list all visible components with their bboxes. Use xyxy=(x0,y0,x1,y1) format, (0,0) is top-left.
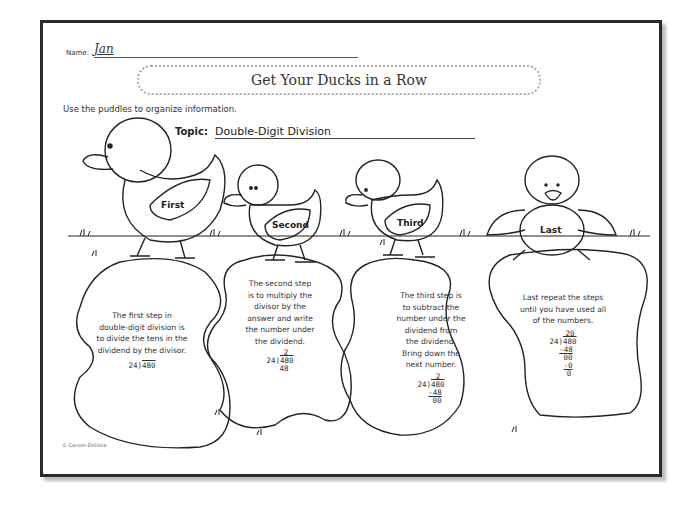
text-line: next number. xyxy=(394,359,468,371)
text-line: dividend from xyxy=(394,325,468,337)
text-line: divisor by the xyxy=(240,301,320,313)
duck-label-last: Last xyxy=(540,225,561,235)
text-line: is to multiply the xyxy=(240,290,320,302)
text-line: The third step is xyxy=(394,290,468,302)
text-line: Last repeat the steps xyxy=(508,292,618,304)
text-line: of the numbers. xyxy=(508,315,618,327)
text-line: answer and write xyxy=(240,313,320,325)
text-line: the number under xyxy=(240,324,320,336)
division-problem: 2 24)480 48 xyxy=(240,349,320,373)
text-line: Bring down the xyxy=(394,348,468,360)
text-line: The first step in xyxy=(82,310,202,322)
text-line: number under the xyxy=(394,313,468,325)
step-last-text: Last repeat the steps until you have use… xyxy=(508,292,618,378)
duck-illustration xyxy=(0,0,695,507)
text-line: until you have used all xyxy=(508,304,618,316)
duck-label-second: Second xyxy=(272,220,309,230)
duck-third-icon xyxy=(346,160,443,257)
text-line: The second step xyxy=(240,278,320,290)
text-line: dividend by the divisor. xyxy=(82,345,202,357)
chick-last-icon xyxy=(487,156,616,260)
division-problem: 20 24)480 -48 00 -0 0 xyxy=(508,330,618,378)
text-line: the dividend. xyxy=(240,336,320,348)
step-second-text: The second step is to multiply the divis… xyxy=(240,278,320,373)
step-third-text: The third step is to subtract the number… xyxy=(394,290,468,405)
text-line: double-digit division is xyxy=(82,322,202,334)
duck-first-icon xyxy=(83,118,225,258)
duck-second-icon xyxy=(224,165,321,262)
duck-label-third: Third xyxy=(397,218,424,228)
text-line: the dividend. xyxy=(394,336,468,348)
copyright: © Carson-Dellosa xyxy=(62,442,106,448)
text-line: to divide the tens in the xyxy=(82,333,202,345)
duck-label-first: First xyxy=(161,200,184,210)
division-problem: 2 24)480 -48 00 xyxy=(394,373,468,405)
text-line: to subtract the xyxy=(394,302,468,314)
step-first-text: The first step in double-digit division … xyxy=(82,310,202,370)
division-problem: 24)480 xyxy=(82,362,202,370)
